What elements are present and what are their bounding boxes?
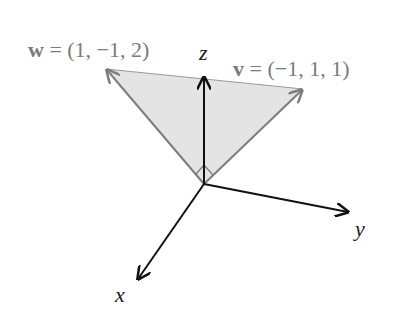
- vector-w-symbol: w: [28, 37, 44, 62]
- vector-v-label: v = (−1, 1, 1): [233, 58, 349, 80]
- z-axis-label: z: [199, 42, 208, 64]
- y-axis-label: y: [355, 218, 365, 240]
- vector-v-components: = (−1, 1, 1): [244, 56, 349, 81]
- vector-v-symbol: v: [233, 56, 244, 81]
- x-axis: [138, 184, 204, 279]
- vector-w-components: = (1, −1, 2): [44, 37, 149, 62]
- vector-w-label: w = (1, −1, 2): [28, 39, 149, 61]
- y-axis: [204, 184, 348, 212]
- x-axis-label: x: [115, 284, 125, 306]
